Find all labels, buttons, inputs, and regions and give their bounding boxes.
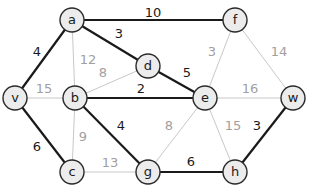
edge-weight-a-d: 3 — [115, 26, 123, 41]
edge-weight-a-v: 4 — [33, 44, 41, 59]
edge-weight-e-w: 16 — [242, 81, 259, 96]
edge-weight-b-g: 4 — [117, 118, 125, 133]
node-label: b — [71, 90, 79, 105]
edge-weight-b-e: 2 — [137, 81, 145, 96]
edge-weight-a-f: 10 — [145, 5, 162, 20]
edge-e-g — [148, 98, 205, 172]
node-f: f — [223, 8, 247, 32]
edge-weight-g-h: 6 — [187, 154, 195, 169]
node-w: w — [281, 86, 305, 110]
edges-layer — [15, 20, 293, 172]
node-g: g — [136, 160, 160, 184]
edge-weight-f-e: 3 — [208, 44, 216, 59]
node-label: g — [144, 164, 152, 179]
edge-weight-d-b: 8 — [99, 65, 107, 80]
node-c: c — [60, 160, 84, 184]
edge-weight-d-e: 5 — [183, 65, 191, 80]
edge-weight-b-c: 9 — [79, 129, 87, 144]
node-label: v — [11, 90, 19, 105]
edge-v-c — [15, 98, 72, 172]
node-label: c — [68, 164, 75, 179]
node-d: d — [136, 54, 160, 78]
node-b: b — [63, 86, 87, 110]
node-e: e — [193, 86, 217, 110]
edge-weight-e-h: 15 — [225, 118, 242, 133]
edge-weight-v-b: 15 — [36, 81, 53, 96]
edge-weight-a-b: 12 — [80, 52, 97, 67]
node-label: e — [201, 90, 209, 105]
edge-weight-f-w: 14 — [271, 44, 288, 59]
edge-weight-v-c: 6 — [33, 139, 41, 154]
graph-diagram: 10341285215314166941381536 afdvbewcgh — [0, 0, 313, 195]
node-v: v — [3, 86, 27, 110]
edge-weight-c-g: 13 — [102, 155, 119, 170]
edge-weight-e-g: 8 — [165, 118, 173, 133]
node-h: h — [223, 160, 247, 184]
nodes-layer: afdvbewcgh — [3, 8, 305, 184]
node-label: f — [233, 12, 238, 27]
node-label: h — [231, 164, 239, 179]
node-label: a — [68, 12, 76, 27]
node-label: d — [144, 58, 152, 73]
edge-w-h — [235, 98, 293, 172]
node-label: w — [288, 90, 299, 105]
node-a: a — [60, 8, 84, 32]
edge-weight-w-h: 3 — [253, 118, 261, 133]
